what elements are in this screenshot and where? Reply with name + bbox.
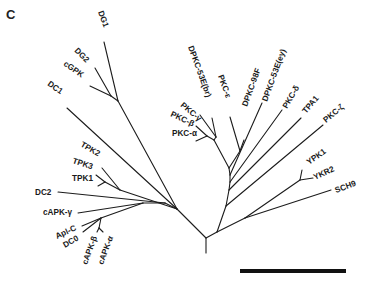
phylogenetic-tree-figure: C DG1DG2cGPKDC1TPK2TPK3TPK1DC2cAPK-γApl-…: [0, 0, 372, 285]
figure-background: [0, 0, 372, 285]
leaf-label: TPK1: [72, 174, 93, 183]
leaf-label: cAPK-γ: [43, 208, 73, 217]
leaf-label: DC2: [35, 188, 52, 197]
panel-label: C: [6, 7, 16, 22]
leaf-label: PKC-α: [172, 129, 197, 138]
